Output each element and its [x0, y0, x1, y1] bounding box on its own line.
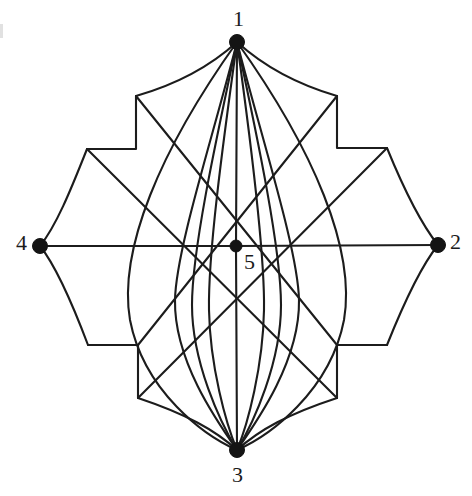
- edge-2-to-righttop-arc: [387, 148, 438, 245]
- edge-1-5: [236, 42, 237, 246]
- graph-canvas: [0, 0, 472, 496]
- vertex-dot-5[interactable]: [230, 240, 242, 252]
- outline-step-bottom-left: [88, 345, 138, 398]
- vertex-label-1: 1: [233, 8, 244, 30]
- graph-figure: 1 2 3 4 5: [0, 0, 472, 496]
- vertex-label-3: 3: [232, 464, 243, 486]
- edge-1-to-topleft-arc: [136, 42, 237, 96]
- edge-4-to-lefttop-arc: [40, 149, 87, 246]
- vertex-label-2: 2: [450, 231, 461, 253]
- edge-diagonal-lt-rb: [87, 149, 337, 398]
- outline-step-top-left: [87, 96, 136, 149]
- edge-5-2: [236, 245, 438, 246]
- edge-5-3: [236, 246, 237, 450]
- outline-step-top-right: [337, 96, 387, 148]
- vertex-dot-4[interactable]: [33, 239, 48, 254]
- vertex-label-5: 5: [244, 251, 255, 273]
- vertex-dot-1[interactable]: [230, 35, 245, 50]
- edge-1-to-topright-arc: [237, 42, 337, 96]
- vertex-dot-3[interactable]: [230, 443, 245, 458]
- edge-4-to-leftbottom-arc: [40, 246, 88, 345]
- outline-step-bottom-right: [337, 345, 387, 398]
- vertex-dot-2[interactable]: [431, 238, 446, 253]
- vertex-label-4: 4: [16, 232, 27, 254]
- edge-2-to-rightbottom-arc: [387, 245, 438, 345]
